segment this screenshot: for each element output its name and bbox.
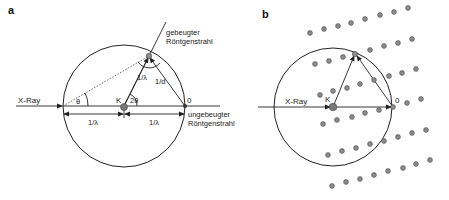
two-theta-label: 2θ xyxy=(130,96,138,105)
center-point-k-b xyxy=(329,103,337,111)
panel-a: a X-Ray 1/λ 1/λ θ 2θ 1/λ 1/d xyxy=(8,4,235,167)
xray-label-a: X-Ray xyxy=(18,96,40,105)
xray-label-b: X-Ray xyxy=(285,97,307,106)
panel-b-label: b xyxy=(262,8,269,20)
right-half-label: 1/λ xyxy=(149,118,159,127)
spacing-label: 1/d xyxy=(155,77,165,86)
undiffracted-label-2: Röntgenstrahl xyxy=(188,119,235,128)
left-half-label: 1/λ xyxy=(88,118,98,127)
diffraction-point-a xyxy=(146,53,152,59)
origin-label-a: 0 xyxy=(187,96,192,105)
ewald-sphere-figure: a X-Ray 1/λ 1/λ θ 2θ 1/λ 1/d xyxy=(0,0,449,200)
panel-b: b X-Ray K 0 xyxy=(258,6,432,189)
radius-vector-b xyxy=(333,56,354,107)
origin-label-b: 0 xyxy=(395,96,400,105)
theta-arc xyxy=(85,93,88,106)
undiffracted-label-1: ungebeugter xyxy=(188,110,231,119)
center-point-k-a xyxy=(121,104,128,111)
center-label-b: K xyxy=(325,95,331,104)
radius-label: 1/λ xyxy=(137,73,147,82)
theta-label: θ xyxy=(76,97,80,106)
center-label-a: K xyxy=(116,96,122,105)
diffracted-label-1: gebeugter xyxy=(166,28,200,37)
panel-a-label: a xyxy=(8,4,15,16)
diffracted-label-2: Röntgenstrahl xyxy=(166,37,213,46)
diffracted-beam-line xyxy=(124,22,166,106)
